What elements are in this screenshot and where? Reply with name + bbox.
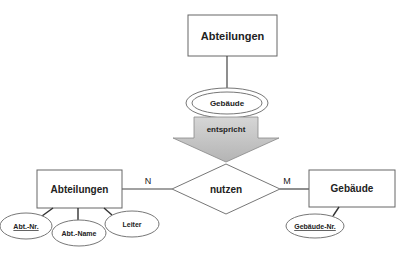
attribute-label: Leiter xyxy=(122,221,141,228)
attribute-abt-name: Abt.-Name xyxy=(52,220,106,246)
right-entity-gebaeude: Gebäude xyxy=(309,170,395,207)
attribute-gebaeude-nr: Gebäude-Nr. xyxy=(286,214,344,238)
left-entity-label: Abteilungen xyxy=(51,184,109,195)
attribute-leiter: Leiter xyxy=(105,211,159,237)
multivalued-attribute-gebaeude: Gebäude xyxy=(186,88,268,118)
multivalued-attribute-label: Gebäude xyxy=(210,99,245,108)
key-attribute-label: Abt.-Nr. xyxy=(13,223,38,230)
top-entity-abteilungen: Abteilungen xyxy=(188,15,277,56)
attr-line xyxy=(104,208,112,215)
key-attribute-label: Gebäude-Nr. xyxy=(294,223,336,230)
relationship-label: nutzen xyxy=(210,184,242,195)
attr-line xyxy=(333,207,339,216)
cardinality-n: N xyxy=(145,176,152,186)
arrow-label: entspricht xyxy=(207,125,246,134)
arrow-down-icon: entspricht xyxy=(173,117,279,162)
top-entity-label: Abteilungen xyxy=(201,30,265,42)
attribute-label: Abt.-Name xyxy=(61,230,96,237)
right-entity-label: Gebäude xyxy=(331,183,374,194)
cardinality-m: M xyxy=(283,176,291,186)
er-diagram: Abteilungen Gebäude entspricht N M nutze… xyxy=(0,0,415,262)
attribute-abt-nr: Abt.-Nr. xyxy=(0,213,52,239)
attr-line xyxy=(42,208,53,216)
relationship-nutzen: nutzen xyxy=(172,164,280,214)
left-entity-abteilungen: Abteilungen xyxy=(37,170,122,208)
